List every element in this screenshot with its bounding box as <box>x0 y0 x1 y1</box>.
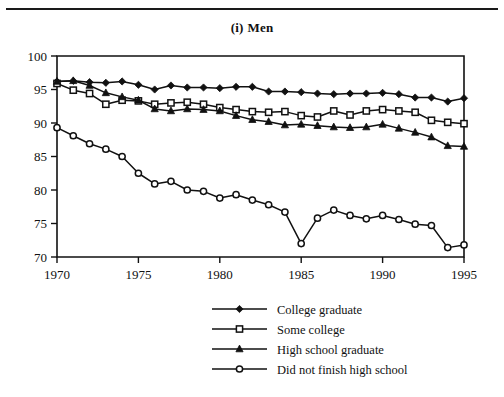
legend-marker-open-circle <box>236 366 242 372</box>
data-point <box>395 91 402 98</box>
data-point <box>460 95 467 102</box>
data-point <box>103 146 109 152</box>
x-tick-label-1970: 1970 <box>44 267 70 282</box>
data-point <box>151 86 158 93</box>
data-point <box>168 100 174 106</box>
data-point <box>86 90 92 96</box>
line-chart: 707580859095100 197019751980198519901995… <box>0 0 504 397</box>
data-point <box>347 112 353 118</box>
legend-label: High school graduate <box>277 343 384 357</box>
x-tick-label-1990: 1990 <box>370 267 396 282</box>
data-point <box>70 133 76 139</box>
data-point <box>412 109 418 115</box>
x-tick-label-1985: 1985 <box>288 267 314 282</box>
x-tick-label-1975: 1975 <box>125 267 151 282</box>
chart-legend: College graduateSome collegeHigh school … <box>212 303 408 377</box>
legend-label: College graduate <box>277 303 362 317</box>
data-point <box>232 83 239 90</box>
data-point <box>461 121 467 127</box>
data-point <box>266 202 272 208</box>
data-point <box>184 84 191 91</box>
data-point <box>428 222 434 228</box>
series-did-not-finish-high-school <box>54 125 467 251</box>
data-point <box>119 78 126 85</box>
data-point <box>330 91 337 98</box>
x-tick-label-1995: 1995 <box>451 267 477 282</box>
data-point <box>216 85 223 92</box>
legend-label: Some college <box>277 323 345 337</box>
data-point <box>135 170 141 176</box>
y-tick-label-95: 95 <box>34 82 47 97</box>
data-point <box>314 114 320 120</box>
y-tick-label-80: 80 <box>34 183 47 198</box>
legend-item-1: Some college <box>212 323 345 337</box>
data-point <box>266 109 272 115</box>
data-point <box>363 108 369 114</box>
data-point <box>444 98 451 105</box>
data-point <box>233 192 239 198</box>
series-path <box>57 81 464 147</box>
data-point <box>184 187 190 193</box>
data-point <box>86 141 92 147</box>
data-point <box>347 212 353 218</box>
data-point <box>396 216 402 222</box>
plot-frame <box>57 56 464 257</box>
legend-marker-filled-diamond <box>236 305 243 312</box>
data-point <box>412 94 419 101</box>
data-point <box>314 215 320 221</box>
x-tick-label-1980: 1980 <box>207 267 233 282</box>
data-point <box>346 90 353 97</box>
x-axis: 197019751980198519901995 <box>44 257 477 282</box>
data-point <box>461 242 467 248</box>
data-point <box>428 94 435 101</box>
data-point <box>282 209 288 215</box>
data-point <box>428 117 434 123</box>
data-point <box>119 153 125 159</box>
legend-marker-open-square <box>236 326 242 332</box>
data-point <box>249 83 256 90</box>
figure-page: (i)Men 707580859095100 19701975198019851… <box>0 0 504 397</box>
data-point <box>103 101 109 107</box>
data-point <box>298 241 304 247</box>
legend-item-0: College graduate <box>212 303 362 317</box>
data-point <box>412 221 418 227</box>
data-point <box>249 109 255 115</box>
data-point <box>200 84 207 91</box>
data-point <box>102 79 109 86</box>
legend-item-2: High school graduate <box>212 343 384 357</box>
series-path <box>57 128 464 248</box>
data-series-group <box>53 77 467 251</box>
data-point <box>265 88 272 95</box>
data-point <box>380 212 386 218</box>
data-point <box>379 120 386 127</box>
y-tick-label-75: 75 <box>34 216 47 231</box>
data-point <box>249 197 255 203</box>
data-point <box>54 125 60 131</box>
data-point <box>363 216 369 222</box>
data-point <box>445 119 451 125</box>
y-axis: 707580859095100 <box>28 49 58 265</box>
data-point <box>200 188 206 194</box>
y-tick-label-90: 90 <box>34 116 47 131</box>
y-tick-label-85: 85 <box>34 149 47 164</box>
data-point <box>281 88 288 95</box>
data-point <box>331 108 337 114</box>
y-tick-label-100: 100 <box>28 49 48 64</box>
series-path <box>57 81 464 102</box>
data-point <box>135 81 142 88</box>
data-point <box>379 89 386 96</box>
data-point <box>70 87 76 93</box>
data-point <box>282 109 288 115</box>
legend-item-3: Did not finish high school <box>212 363 408 377</box>
series-some-college <box>54 80 467 126</box>
data-point <box>217 195 223 201</box>
legend-label: Did not finish high school <box>277 363 408 377</box>
data-point <box>314 90 321 97</box>
data-point <box>152 181 158 187</box>
series-college-graduate <box>53 77 467 105</box>
y-tick-label-70: 70 <box>34 250 47 265</box>
series-high-school-graduate <box>53 77 467 149</box>
data-point <box>298 89 305 96</box>
data-point <box>168 178 174 184</box>
data-point <box>380 107 386 113</box>
